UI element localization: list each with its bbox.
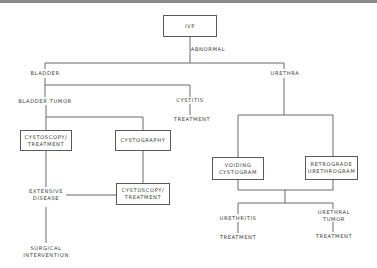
urethral-tumor-label: URETHRAL TUMOR <box>318 209 350 223</box>
cystoscopy-treatment-label-1: CYSTOSCOPY/ TREATMENT <box>25 134 68 148</box>
cystoscopy-treatment-label-2: CYSTOSCOPY/ TREATMENT <box>122 187 165 201</box>
cystitis-label: CYSTITIS <box>176 97 203 104</box>
cystoscopy-treatment-node-2: CYSTOSCOPY/ TREATMENT <box>116 183 170 205</box>
urethra-label: URETHRA <box>271 70 300 77</box>
cystography-node: CYSTOGRAPHY <box>115 130 171 151</box>
bladder-label: BLADDER <box>30 70 59 77</box>
bladder-tumor-label: BLADDER TUMOR <box>18 98 72 105</box>
ivp-node: IVP <box>163 15 217 37</box>
cystitis-treatment-label: TREATMENT <box>174 116 211 123</box>
ivp-label: IVP <box>185 23 195 30</box>
urethritis-treatment-label: TREATMENT <box>220 234 257 241</box>
voiding-cystogram-label: VOIDING CYSTOGRAM <box>219 162 257 176</box>
cystoscopy-treatment-node-1: CYSTOSCOPY/ TREATMENT <box>20 130 72 151</box>
surgical-intervention-label: SURGICAL INTERVENTION <box>23 245 69 259</box>
urethritis-label: URETHRITIS <box>220 215 257 222</box>
retrograde-urethrogram-node: RETROGRADE URETHROGRAM <box>305 156 358 180</box>
retrograde-urethrogram-label: RETROGRADE URETHROGRAM <box>308 161 355 175</box>
urethral-tumor-treatment-label: TREATMENT <box>316 233 353 240</box>
extensive-disease-label: EXTENSIVE DISEASE <box>29 188 63 202</box>
voiding-cystogram-node: VOIDING CYSTOGRAM <box>212 157 264 180</box>
abnormal-label: ABNORMAL <box>191 46 225 53</box>
cystography-label: CYSTOGRAPHY <box>120 137 165 144</box>
